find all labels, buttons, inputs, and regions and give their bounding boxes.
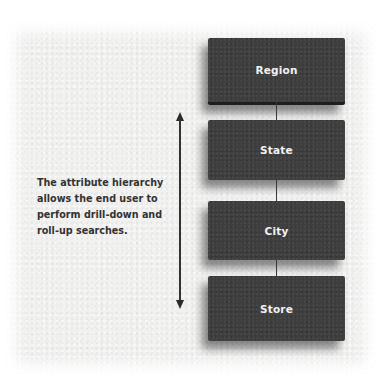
hierarchy-level-store: Store (208, 276, 345, 341)
caption-line: roll-up searches. (37, 223, 167, 239)
drill-arrow-shaft (179, 118, 181, 304)
caption-line: allows the end user to (37, 191, 167, 207)
level-label: Store (260, 303, 293, 315)
connector-city-store (276, 260, 277, 276)
hierarchy-level-state: State (208, 120, 345, 180)
level-label: Region (255, 64, 297, 76)
hierarchy-level-region: Region (208, 38, 345, 105)
arrow-down-icon (176, 300, 184, 309)
caption-line: perform drill-down and (37, 207, 167, 223)
connector-state-city (276, 180, 277, 201)
level-label: City (265, 225, 289, 237)
caption-text: The attribute hierarchy allows the end u… (37, 175, 167, 239)
caption-line: The attribute hierarchy (37, 175, 167, 191)
hierarchy-level-city: City (208, 201, 345, 260)
level-label: State (260, 144, 293, 156)
connector-region-state (276, 102, 277, 120)
